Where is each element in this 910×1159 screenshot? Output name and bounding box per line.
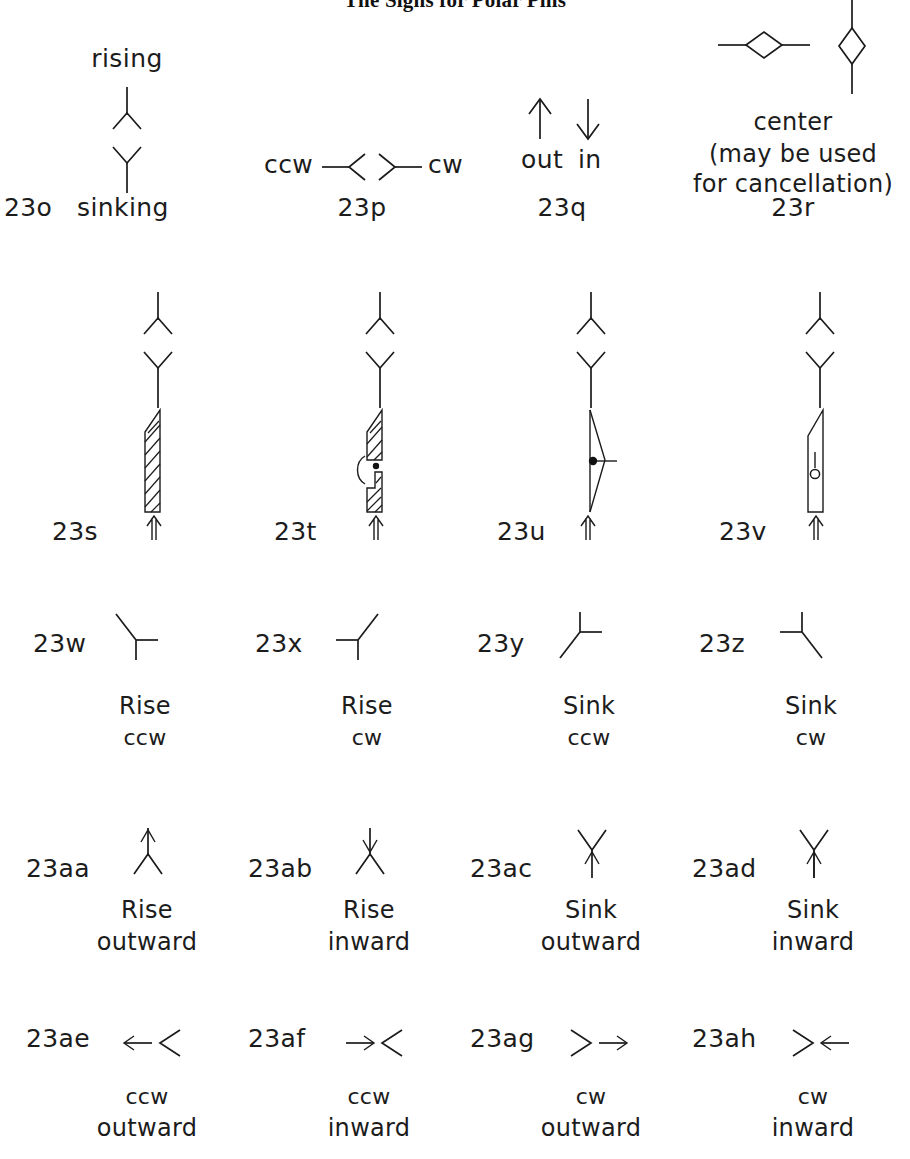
symbol-23ae xyxy=(122,1028,184,1058)
caption-23z-line1: Sink xyxy=(785,692,837,720)
caption-23ad-line1: Sink xyxy=(787,896,839,924)
label-23p: 23p xyxy=(338,193,387,222)
caption-23y-line1: Sink xyxy=(563,692,615,720)
caption-23x-line1: Rise xyxy=(341,692,393,720)
label-23s: 23s xyxy=(52,517,98,546)
label-23r: 23r xyxy=(771,193,814,222)
glyph-rise-inward xyxy=(350,826,390,882)
glyph-rise-ccw xyxy=(108,610,164,662)
label-23w: 23w xyxy=(33,629,86,658)
caption-23z-line2: cw xyxy=(796,725,827,750)
symbol-23ag xyxy=(567,1028,629,1058)
caption-23ah-line2: inward xyxy=(772,1114,855,1142)
caption-23ab-line1: Rise xyxy=(343,896,395,924)
symbol-23v xyxy=(790,292,850,542)
caption-23aa-line2: outward xyxy=(97,928,197,956)
label-23o: 23o xyxy=(4,193,52,222)
glyph-lens-blade-dot-pin xyxy=(565,292,637,542)
glyph-sink-outward xyxy=(572,826,612,882)
symbol-23x xyxy=(330,610,386,662)
symbol-23aa xyxy=(128,826,168,882)
symbol-23u xyxy=(565,292,637,542)
glyph-cw-inward xyxy=(789,1028,851,1058)
label-23u: 23u xyxy=(497,517,546,546)
symbol-23ab xyxy=(350,826,390,882)
caption-23ab-line2: inward xyxy=(328,928,411,956)
caption-23ae-line1: ccw xyxy=(125,1084,168,1109)
label-23v: 23v xyxy=(719,517,767,546)
caption-23r-line1: center xyxy=(753,108,832,136)
caption-23r-line2: (may be used xyxy=(709,140,877,168)
label-rising: rising xyxy=(91,44,162,73)
glyph-open-blade-hollow-circle-pin xyxy=(790,292,850,542)
symbol-23s xyxy=(128,292,188,542)
caption-23ac-line2: outward xyxy=(541,928,641,956)
glyph-sink-ccw xyxy=(552,610,608,662)
label-23t: 23t xyxy=(274,517,317,546)
label-23q: 23q xyxy=(538,193,587,222)
glyph-hatched-blade-pin xyxy=(128,292,188,542)
label-out-23q: out xyxy=(521,145,563,174)
symbol-23ah xyxy=(789,1028,851,1058)
symbol-23z xyxy=(774,610,830,662)
glyph-cw-outward xyxy=(567,1028,629,1058)
label-23ac: 23ac xyxy=(470,854,532,883)
glyph-split-hatched-blade-pin xyxy=(348,292,418,542)
caption-23ad-line2: inward xyxy=(772,928,855,956)
label-23x: 23x xyxy=(255,629,303,658)
caption-23w-line1: Rise xyxy=(119,692,171,720)
glyph-rise-outward xyxy=(128,826,168,882)
symbol-23ad xyxy=(794,826,834,882)
label-cw-23p: cw xyxy=(428,150,463,179)
label-23ah: 23ah xyxy=(692,1024,757,1053)
label-23ab: 23ab xyxy=(248,854,313,883)
caption-23x-line2: cw xyxy=(352,725,383,750)
glyph-rising-sinking xyxy=(102,85,152,195)
caption-23ag-line2: outward xyxy=(541,1114,641,1142)
caption-23w-line2: ccw xyxy=(123,725,166,750)
label-in-23q: in xyxy=(578,145,602,174)
label-23af: 23af xyxy=(248,1024,306,1053)
label-ccw-23p: ccw xyxy=(264,150,313,179)
glyph-ccw-outward xyxy=(122,1028,184,1058)
glyph-rise-cw xyxy=(330,610,386,662)
label-23ag: 23ag xyxy=(470,1024,535,1053)
glyph-sink-inward xyxy=(794,826,834,882)
caption-23ac-line1: Sink xyxy=(565,896,617,924)
glyph-ccw-cw xyxy=(322,150,422,184)
label-23ad: 23ad xyxy=(692,854,757,883)
glyph-center-diamonds xyxy=(712,0,892,96)
symbol-23ac xyxy=(572,826,612,882)
label-23ae: 23ae xyxy=(26,1024,90,1053)
symbol-23o xyxy=(102,85,152,195)
caption-23aa-line1: Rise xyxy=(121,896,173,924)
symbol-23q xyxy=(524,95,610,141)
symbol-23w xyxy=(108,610,164,662)
symbol-23y xyxy=(552,610,608,662)
label-23y: 23y xyxy=(477,629,525,658)
glyph-ccw-inward xyxy=(344,1028,406,1058)
caption-23ah-line1: cw xyxy=(798,1084,829,1109)
caption-23af-line2: inward xyxy=(328,1114,411,1142)
symbol-23r xyxy=(712,0,892,96)
glyph-sink-cw xyxy=(774,610,830,662)
symbol-23t xyxy=(348,292,418,542)
caption-23af-line1: ccw xyxy=(347,1084,390,1109)
label-23aa: 23aa xyxy=(26,854,90,883)
symbol-23af xyxy=(344,1028,406,1058)
label-23z: 23z xyxy=(699,629,745,658)
glyph-out-in xyxy=(524,95,610,141)
caption-23y-line2: ccw xyxy=(567,725,610,750)
symbol-23p xyxy=(322,150,422,184)
caption-23ae-line2: outward xyxy=(97,1114,197,1142)
label-sinking: sinking xyxy=(77,193,169,222)
caption-23ag-line1: cw xyxy=(576,1084,607,1109)
